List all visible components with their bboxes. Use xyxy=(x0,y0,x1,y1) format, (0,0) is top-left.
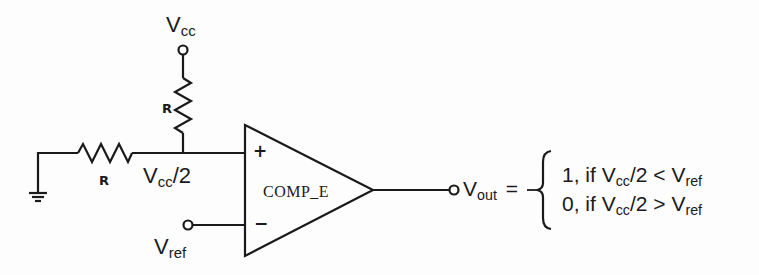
midpoint-label: Vcc/2 xyxy=(143,165,191,187)
case-2-mid: /2 > V xyxy=(630,192,685,215)
case-1-sub1: cc xyxy=(616,173,630,189)
case-2-sub2: ref xyxy=(685,202,702,218)
vcc-label-main: V xyxy=(166,12,181,37)
minus-sign: − xyxy=(254,215,268,232)
vref-terminal-icon xyxy=(184,221,193,230)
bottom-resistor-icon xyxy=(78,144,132,162)
ground-icon xyxy=(29,193,47,201)
vcc-label: Vcc xyxy=(166,14,196,36)
bottom-resistor-label: R xyxy=(99,174,109,187)
case-2-sub1: cc xyxy=(616,202,630,218)
case-1: 1, if Vcc/2 < Vref xyxy=(562,164,702,185)
vout-label: Vout = xyxy=(463,178,518,199)
case-1-sub2: ref xyxy=(685,173,702,189)
case-2-value: 0, if V xyxy=(562,192,616,215)
midpoint-label-sub: cc xyxy=(158,173,173,190)
case-2: 0, if Vcc/2 > Vref xyxy=(562,193,702,214)
vref-label-main: V xyxy=(154,234,169,259)
case-1-mid: /2 < V xyxy=(630,163,685,186)
circuit-schematic xyxy=(0,0,759,275)
plus-sign: + xyxy=(253,143,267,160)
comparator-circuit-diagram: Vcc R R Vcc/2 Vref + − COMP_E Vout = 1, … xyxy=(0,0,759,275)
vcc-terminal-icon xyxy=(179,46,188,55)
vref-label: Vref xyxy=(154,236,186,258)
equals-sign: = xyxy=(506,177,518,200)
vout-label-main: V xyxy=(463,177,477,200)
midpoint-label-main: V xyxy=(143,163,158,188)
comparator-name: COMP_E xyxy=(263,184,329,200)
top-resistor-icon xyxy=(175,78,191,133)
ground-wire xyxy=(38,153,78,193)
midpoint-label-suffix: /2 xyxy=(173,163,191,188)
vout-terminal-icon xyxy=(450,186,459,195)
brace-icon xyxy=(537,151,551,229)
vref-label-sub: ref xyxy=(169,244,186,261)
vcc-label-sub: cc xyxy=(181,22,196,39)
top-resistor-label: R xyxy=(162,102,172,115)
case-1-value: 1, if V xyxy=(562,163,616,186)
vout-label-sub: out xyxy=(477,187,497,203)
